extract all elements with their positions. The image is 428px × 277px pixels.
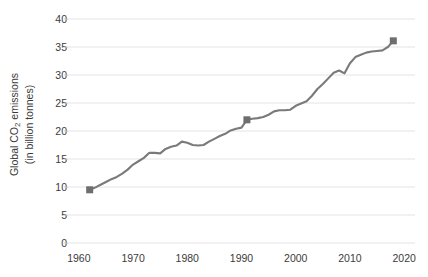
co2-emissions-line-chart: Global CO2 emissions (in billion tonnes)… <box>0 0 428 277</box>
axis-ticks <box>64 19 68 243</box>
data-line-series <box>90 41 394 190</box>
data-point-marker <box>243 116 250 123</box>
data-point-marker <box>86 186 93 193</box>
plot-area <box>0 0 428 277</box>
gridlines <box>68 19 415 243</box>
data-point-marker <box>390 37 397 44</box>
data-markers <box>86 37 397 193</box>
